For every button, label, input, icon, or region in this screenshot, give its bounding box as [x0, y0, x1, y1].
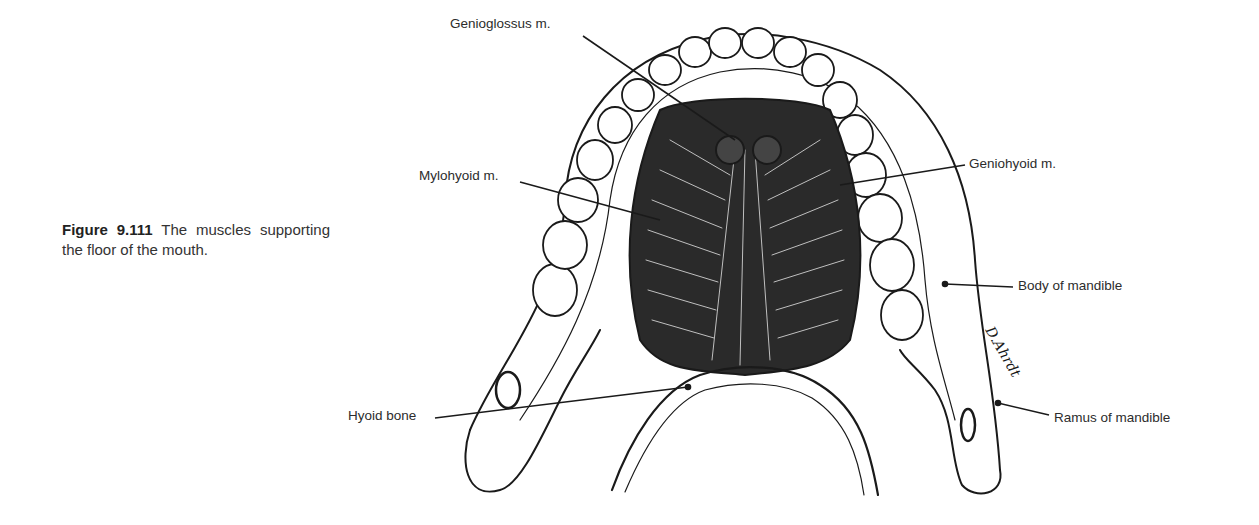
mylohyoid-muscle	[630, 99, 861, 375]
mouth-floor-illustration: D.Ahrdt	[0, 0, 1259, 525]
genioglossus-stump-right	[753, 136, 781, 164]
label-genioglossus: Genioglossus m.	[450, 16, 551, 31]
label-ramus-of-mandible: Ramus of mandible	[1054, 410, 1170, 425]
left-ramus	[465, 330, 600, 492]
leader-hyoid	[435, 387, 688, 418]
label-mylohyoid: Mylohyoid m.	[419, 168, 499, 183]
leader-ramus-mandible	[998, 403, 1049, 415]
label-geniohyoid: Geniohyoid m.	[969, 156, 1056, 171]
label-body-of-mandible: Body of mandible	[1018, 278, 1122, 293]
hyoid-bone	[612, 367, 878, 495]
label-hyoid-bone: Hyoid bone	[348, 408, 416, 423]
right-ramus	[900, 350, 1001, 493]
leader-body-mandible	[945, 284, 1013, 287]
genioglossus-stump-left	[716, 136, 744, 164]
